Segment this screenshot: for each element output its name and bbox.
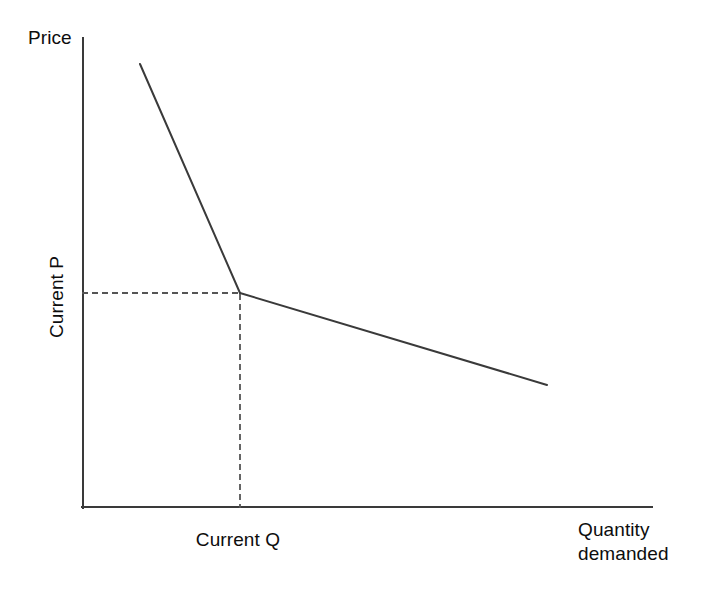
x-axis-title-line-2: demanded: [578, 542, 698, 566]
figure-canvas: Price Current P Current Q Quantity deman…: [0, 0, 704, 594]
kinked-demand-curve-plot: [0, 0, 704, 594]
x-axis-title: Quantity demanded: [578, 518, 698, 566]
y-axis-tick-label-current-p: Current P: [45, 256, 68, 338]
y-axis-title: Price: [28, 26, 72, 49]
x-axis-tick-label-current-q: Current Q: [196, 528, 280, 551]
demand-curve-lower-segment: [240, 293, 547, 385]
x-axis-title-line-1: Quantity: [578, 518, 698, 542]
demand-curve-upper-segment: [140, 64, 240, 293]
